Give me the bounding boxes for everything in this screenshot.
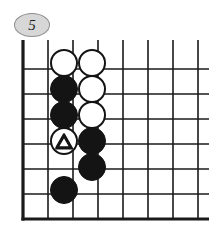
white-stone: [78, 75, 106, 103]
go-board: [0, 0, 209, 246]
black-stone: [50, 176, 78, 204]
black-stone: [50, 101, 78, 129]
white-stone: [50, 49, 78, 77]
triangle-mark-icon: [55, 133, 73, 151]
go-diagram: 5: [0, 0, 209, 246]
black-stone: [78, 153, 106, 181]
go-board-grid: [0, 0, 209, 246]
white-stone: [50, 127, 78, 155]
black-stone: [78, 127, 106, 155]
white-stone: [78, 49, 106, 77]
white-stone: [78, 101, 106, 129]
black-stone: [50, 75, 78, 103]
